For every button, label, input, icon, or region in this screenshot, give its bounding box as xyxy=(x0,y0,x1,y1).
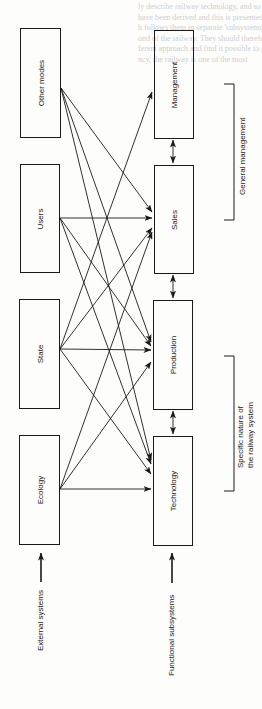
edge-state-management xyxy=(60,92,152,349)
box-ecology: Ecology xyxy=(19,435,60,545)
label-general-management: General management xyxy=(238,118,248,195)
box-state: State xyxy=(19,299,60,409)
edge-ecology-sales xyxy=(60,232,152,489)
label-railway-system-line2: the railway system xyxy=(246,402,256,468)
box-label: Production xyxy=(169,336,178,374)
box-label: Ecology xyxy=(35,476,44,504)
box-production: Production xyxy=(153,300,193,410)
box-users: Users xyxy=(20,164,60,273)
label-railway-system-line1: Specific nature of xyxy=(236,406,246,468)
box-label: State xyxy=(35,345,44,364)
box-label: Sales xyxy=(170,209,179,229)
box-label: Other modes xyxy=(36,60,45,106)
box-other-modes: Other modes xyxy=(20,28,61,138)
edge-othermodes-production xyxy=(61,88,151,342)
edge-state-production xyxy=(60,349,151,350)
box-sales: Sales xyxy=(154,165,194,274)
box-label: Technology xyxy=(169,471,178,511)
edge-state-technology xyxy=(60,349,151,474)
box-label: Users xyxy=(36,208,45,229)
label-functional-subsystems: Functional subsystems xyxy=(167,595,177,676)
edge-users-technology xyxy=(60,218,151,464)
bracket-railway-system xyxy=(224,356,234,491)
label-external-systems: External systems xyxy=(36,590,46,651)
box-label: Management xyxy=(170,61,179,108)
edge-ecology-production xyxy=(60,362,151,489)
edge-othermodes-technology xyxy=(61,88,151,460)
box-management: Management xyxy=(154,30,194,139)
box-technology: Technology xyxy=(153,436,193,546)
edge-users-production xyxy=(60,218,151,346)
edge-othermodes-sales xyxy=(61,88,152,212)
edge-state-sales xyxy=(60,228,152,349)
bracket-general-management xyxy=(224,84,234,220)
